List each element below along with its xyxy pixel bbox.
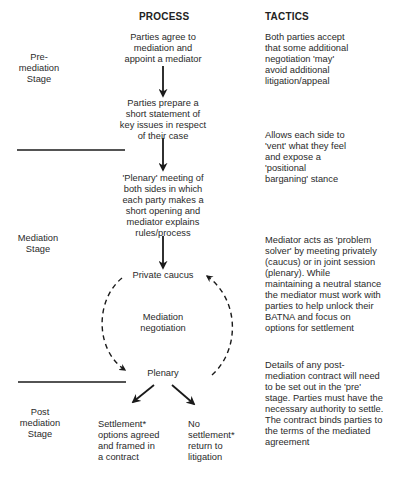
text-line: return to [188,441,248,452]
text-line: necessary authority to settle. [265,404,400,415]
text-line: mediation [5,418,75,429]
text-line: mediation and [113,43,213,54]
stage-label-pre-mediation: Pre- mediation Stage [4,52,74,85]
text-line: litigation/appeal [265,76,395,87]
text-line: maintaining a neutral stance [265,279,400,290]
text-line: of their case [113,131,213,142]
text-line: appoint a mediator [113,54,213,65]
process-cycle-label: Mediationnegotiation [113,312,213,334]
process-header: PROCESS [139,11,189,22]
outcome-no-settlement: Nosettlement*return tolitigation [188,419,248,463]
text-line: short statement of [113,109,213,120]
text-line: mediation [4,63,74,74]
text-line: each party makes a [113,195,213,206]
arrow-plenary-to-no-settlement [172,385,194,404]
text-line: agreement [265,437,400,448]
tactic-pre-mediation: Both parties acceptthat some additionaln… [265,32,395,87]
text-line: the mediator must work with [265,290,400,301]
arrow-plenary-to-settlement [133,385,154,402]
tactic-plenary-opening: Allows each side to'vent' what they feel… [265,130,395,185]
text-line: 'Plenary' meeting of [113,173,213,184]
text-line: Parties agree to [113,32,213,43]
text-line: mediator explains [113,217,213,228]
text-line: to be set out in the 'pre' [265,382,400,393]
text-line: options agreed [98,430,168,441]
text-line: negotiation 'may' [265,54,395,65]
text-line: BATNA and focus on [265,312,400,323]
process-step-agree-to-mediation: Parties agree tomediation andappoint a m… [113,32,213,65]
text-line: Mediation [113,312,213,323]
text-line: short opening and [113,206,213,217]
stage-label-post-mediation: Post mediation Stage [5,407,75,440]
text-line: Stage [4,74,74,85]
text-line: and expose a [265,152,395,163]
tactic-post-mediation: Details of any post-mediation contract w… [265,360,400,448]
text-line: litigation [188,452,248,463]
text-line: that some additional [265,43,395,54]
text-line: Pre- [4,52,74,63]
process-node-private-caucus: Private caucus [113,270,213,281]
text-line: a contract [98,452,168,463]
text-line: Settlement* [98,419,168,430]
text-line: Stage [3,244,73,255]
text-line: Allows each side to [265,130,395,141]
text-line: solver' by meeting privately [265,246,400,257]
stage-label-mediation: Mediation Stage [3,233,73,255]
outcome-settlement: Settlement*options agreedand framed ina … [98,419,168,463]
text-line: mediation contract will need [265,371,400,382]
text-line: The contract binds parties to [265,415,400,426]
text-line: Parties prepare a [113,98,213,109]
text-line: and framed in [98,441,168,452]
text-line: negotiation [113,323,213,334]
process-node-plenary: Plenary [113,368,213,379]
tactics-header: TACTICS [265,11,309,22]
text-line: settlement* [188,430,248,441]
text-line: both sides in which [113,184,213,195]
tactic-mediation-stage: Mediator acts as 'problemsolver' by meet… [265,235,400,334]
text-line: (plenary). While [265,268,400,279]
text-line: Details of any post- [265,360,400,371]
text-line: 'positional [265,163,395,174]
text-line: rules/process [113,228,213,239]
text-line: Mediator acts as 'problem [265,235,400,246]
text-line: stage. Parties must have the [265,393,400,404]
text-line: parties to help unlock their [265,301,400,312]
text-line: Stage [5,429,75,440]
text-line: (caucus) or in joint session [265,257,400,268]
text-line: options for settlement [265,323,400,334]
process-step-plenary-meeting: 'Plenary' meeting ofboth sides in whiche… [113,173,213,239]
text-line: key issues in respect [113,120,213,131]
text-line: Post [5,407,75,418]
text-line: avoid additional [265,65,395,76]
process-step-prepare-statement: Parties prepare ashort statement ofkey i… [113,98,213,142]
text-line: Both parties accept [265,32,395,43]
text-line: barganing' stance [265,174,395,185]
text-line: Mediation [3,233,73,244]
text-line: the terms of the mediated [265,426,400,437]
text-line: No [188,419,248,430]
text-line: 'vent' what they feel [265,141,395,152]
